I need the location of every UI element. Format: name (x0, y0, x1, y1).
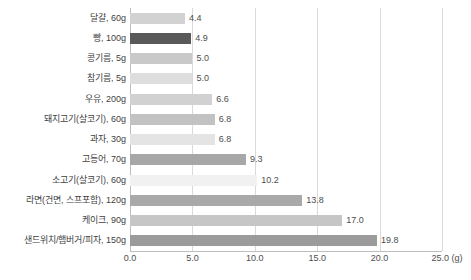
x-axis-line (130, 251, 442, 252)
bar-value-label: 5.0 (196, 74, 209, 83)
bar (130, 13, 185, 24)
bar-row: 10.2 (130, 170, 442, 190)
category-label: 콩기름, 5g (87, 49, 126, 69)
bar-value-label: 17.0 (346, 216, 364, 225)
bar (130, 114, 215, 125)
x-tick-label: 5.0 (186, 254, 199, 263)
bar-value-label: 19.8 (381, 236, 399, 245)
bar-row: 5.0 (130, 49, 442, 69)
bar (130, 154, 246, 165)
x-tick-label: 10.0 (246, 254, 264, 263)
bar (130, 94, 212, 105)
bar (130, 33, 191, 44)
category-label: 달걀, 60g (90, 8, 126, 28)
category-label: 빵, 100g (93, 28, 126, 48)
bar-value-label: 10.2 (261, 176, 279, 185)
x-axis-tick-labels: 0.05.010.015.020.025.0 (g) (0, 254, 471, 270)
bar-rows: 4.44.95.05.06.66.86.89.310.213.817.019.8 (130, 8, 442, 251)
category-label: 케이크, 90g (82, 211, 126, 231)
bar-row: 6.6 (130, 89, 442, 109)
x-tick-label: 25.0 (g) (431, 254, 462, 263)
bar-value-label: 5.0 (196, 54, 209, 63)
category-label: 참기름, 5g (87, 69, 126, 89)
category-label: 고등어, 70g (82, 150, 126, 170)
bar (130, 134, 215, 145)
category-label: 우유, 200g (85, 89, 126, 109)
bar (130, 215, 342, 226)
bar-value-label: 6.8 (219, 115, 232, 124)
bar-row: 4.9 (130, 28, 442, 48)
bar-row: 13.8 (130, 190, 442, 210)
category-label: 샌드위치/햄버거/피자, 150g (24, 231, 126, 251)
bar-value-label: 6.8 (219, 135, 232, 144)
category-label: 돼지고기(살코기), 60g (44, 109, 126, 129)
category-axis-labels: 달걀, 60g빵, 100g콩기름, 5g참기름, 5g우유, 200g돼지고기… (0, 8, 126, 251)
category-label: 라면(건면, 스프포함), 120g (26, 190, 126, 210)
bar-row: 5.0 (130, 69, 442, 89)
bar-row: 6.8 (130, 130, 442, 150)
gridline-25.0 (442, 8, 443, 251)
bar-chart: 4.44.95.05.06.66.86.89.310.213.817.019.8… (0, 0, 471, 280)
x-tick-label: 0.0 (124, 254, 137, 263)
bar-row: 19.8 (130, 231, 442, 251)
bar (130, 53, 192, 64)
plot-area: 4.44.95.05.06.66.86.89.310.213.817.019.8 (130, 8, 442, 251)
category-label: 과자, 30g (90, 130, 126, 150)
bar-row: 6.8 (130, 109, 442, 129)
bar-value-label: 6.6 (216, 95, 229, 104)
bar (130, 175, 257, 186)
bar-row: 17.0 (130, 211, 442, 231)
bar-row: 9.3 (130, 150, 442, 170)
bar (130, 235, 377, 246)
x-tick-label: 20.0 (371, 254, 389, 263)
bar (130, 73, 192, 84)
bar-row: 4.4 (130, 8, 442, 28)
bar-value-label: 13.8 (306, 196, 324, 205)
bar-value-label: 4.9 (195, 34, 208, 43)
bar (130, 195, 302, 206)
bar-value-label: 9.3 (250, 155, 263, 164)
category-label: 소고기(살코기), 60g (52, 170, 126, 190)
bar-value-label: 4.4 (189, 14, 202, 23)
x-tick-label: 15.0 (308, 254, 326, 263)
